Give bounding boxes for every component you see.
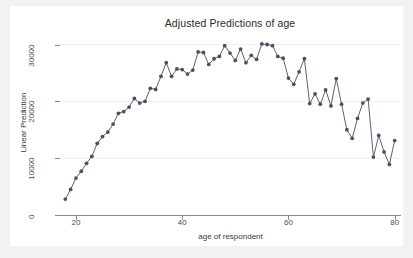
series-plot <box>60 36 400 215</box>
data-point <box>154 88 158 92</box>
data-point <box>127 105 131 109</box>
x-tick-label-20: 20 <box>61 218 91 227</box>
data-point <box>350 136 354 140</box>
data-point <box>191 68 195 72</box>
data-point <box>106 130 110 134</box>
data-point <box>377 134 381 138</box>
gridlines <box>60 45 400 159</box>
data-point <box>79 169 83 173</box>
x-axis-title: age of respondent <box>60 232 401 241</box>
data-point <box>148 86 152 90</box>
data-point <box>382 150 386 154</box>
data-point <box>366 97 370 101</box>
data-point <box>345 128 349 132</box>
data-point <box>255 57 259 61</box>
series-markers <box>63 42 396 201</box>
y-tick-label-0: 0 <box>27 215 36 258</box>
data-point <box>217 55 221 59</box>
data-point <box>202 51 206 55</box>
data-point <box>90 155 94 159</box>
data-point <box>361 101 365 105</box>
data-point <box>318 102 322 106</box>
data-point <box>159 74 163 78</box>
data-point <box>356 117 360 121</box>
chart-title: Adjusted Predictions of age <box>60 17 400 29</box>
x-axis-line <box>60 215 401 216</box>
data-point <box>164 61 168 65</box>
data-point <box>281 56 285 60</box>
data-point <box>180 68 184 72</box>
data-point <box>302 57 306 61</box>
data-point <box>228 51 232 55</box>
data-point <box>186 72 190 76</box>
y-tick-label-10000: 10000 <box>27 158 36 218</box>
x-tick-label-40: 40 <box>167 218 197 227</box>
data-point <box>393 139 397 143</box>
data-point <box>233 59 237 63</box>
data-point <box>260 42 264 46</box>
data-point <box>74 176 78 180</box>
y-tick-label-20000: 20000 <box>27 101 36 161</box>
data-point <box>196 50 200 54</box>
data-point <box>334 77 338 81</box>
data-point <box>117 111 121 115</box>
data-point <box>95 142 99 146</box>
x-tick-label-60: 60 <box>273 218 303 227</box>
data-point <box>101 135 105 139</box>
data-point <box>207 63 211 67</box>
data-point <box>122 110 126 114</box>
y-tick-label-30000: 30000 <box>27 44 36 104</box>
data-point <box>132 97 136 101</box>
data-point <box>287 76 291 80</box>
data-point <box>308 102 312 106</box>
series-line <box>65 44 394 199</box>
data-point <box>387 163 391 167</box>
data-point <box>111 122 115 126</box>
data-point <box>313 92 317 96</box>
data-point <box>212 57 216 61</box>
plot-area <box>60 36 400 215</box>
data-point <box>324 88 328 92</box>
data-point <box>170 74 174 78</box>
graph-card: Adjusted Predictions of age Linear Predi… <box>10 6 403 246</box>
data-point <box>329 104 333 108</box>
data-point <box>239 47 243 51</box>
data-point <box>175 67 179 71</box>
data-point <box>85 161 89 165</box>
data-point <box>271 44 275 48</box>
data-point <box>223 44 227 48</box>
data-point <box>340 102 344 106</box>
chart-figure: Adjusted Predictions of age Linear Predi… <box>0 0 413 258</box>
data-point <box>244 61 248 65</box>
data-point <box>265 43 269 47</box>
y-tick-0 <box>55 215 60 216</box>
x-tick-label-80: 80 <box>380 218 410 227</box>
data-point <box>143 99 147 103</box>
data-point <box>249 53 253 57</box>
data-point <box>297 70 301 74</box>
data-point <box>276 55 280 59</box>
data-point <box>138 101 142 105</box>
data-point <box>292 82 296 86</box>
data-point <box>63 197 67 201</box>
data-point <box>372 155 376 159</box>
data-point <box>69 188 73 192</box>
